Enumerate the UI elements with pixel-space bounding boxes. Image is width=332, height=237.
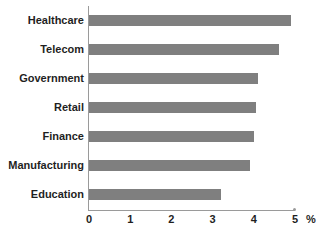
x-axis-unit-label: % [306, 213, 316, 225]
bar-row [89, 64, 295, 93]
bar [89, 160, 250, 171]
x-tick-label: 4 [244, 213, 264, 225]
category-axis-labels: HealthcareTelecomGovernmentRetailFinance… [0, 6, 84, 210]
bar [89, 73, 258, 84]
bar [89, 102, 256, 113]
bar-row [89, 35, 295, 64]
category-label: Government [0, 72, 84, 84]
bar [89, 44, 279, 55]
x-axis-line [88, 210, 295, 211]
bar-row [89, 6, 295, 35]
category-label: Manufacturing [0, 159, 84, 171]
category-label: Finance [0, 130, 84, 142]
bar-row [89, 151, 295, 180]
bar [89, 131, 254, 142]
x-tick-label: 5 [285, 213, 305, 225]
x-tick-label: 1 [120, 213, 140, 225]
x-tick-label: 3 [203, 213, 223, 225]
bar-row [89, 122, 295, 151]
category-label: Retail [0, 101, 84, 113]
category-label: Healthcare [0, 14, 84, 26]
x-tick-label: 0 [79, 213, 99, 225]
x-axis-tick-labels: % 012345 [0, 213, 332, 233]
x-tick-label: 2 [161, 213, 181, 225]
bar [89, 189, 221, 200]
bar [89, 15, 291, 26]
bar-row [89, 93, 295, 122]
plot-area [89, 6, 295, 210]
category-label: Telecom [0, 43, 84, 55]
category-label: Education [0, 188, 84, 200]
bar-chart: HealthcareTelecomGovernmentRetailFinance… [0, 0, 332, 237]
bar-series [89, 6, 295, 210]
bar-row [89, 180, 295, 209]
